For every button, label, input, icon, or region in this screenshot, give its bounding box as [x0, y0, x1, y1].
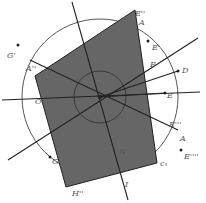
- svg-text:O: O: [35, 97, 42, 106]
- svg-text:G: G: [52, 157, 59, 166]
- svg-text:E''': E''': [168, 120, 181, 129]
- point-e-prime: [147, 40, 150, 43]
- point-g-prime: [17, 44, 20, 47]
- svg-text:c₁: c₁: [160, 159, 168, 168]
- svg-text:G': G': [7, 51, 16, 60]
- svg-text:E'''': E'''': [183, 152, 199, 161]
- svg-text:D: D: [181, 66, 189, 75]
- svg-text:A: A: [138, 18, 145, 27]
- svg-text:E'': E'': [134, 9, 145, 18]
- svg-text:H'': H'': [71, 189, 83, 198]
- svg-text:N: N: [118, 147, 127, 156]
- svg-text:A'': A'': [25, 64, 36, 73]
- point-center: [98, 95, 102, 99]
- svg-text:E': E': [151, 43, 160, 52]
- svg-text:I: I: [124, 180, 129, 189]
- point-e-4prime: [180, 149, 183, 152]
- point-d: [177, 70, 180, 73]
- svg-text:F: F: [149, 60, 156, 69]
- svg-text:A: A: [179, 134, 186, 143]
- svg-text:E: E: [166, 91, 173, 100]
- geometry-diagram: G' A'' E'' A E' F D E O E''' A E'''' c₁ …: [0, 0, 206, 203]
